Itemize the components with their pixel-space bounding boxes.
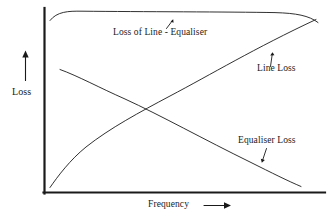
y-axis-label: Loss: [12, 87, 31, 97]
figure-container: Loss of Line - Equaliser Line Loss Equal…: [0, 0, 335, 218]
annotation-label-line-loss: Line Loss: [257, 64, 296, 74]
curve-line-loss: [50, 20, 316, 188]
curve-equaliser-loss: [60, 70, 301, 187]
annotation-label-equaliser-loss: Equaliser Loss: [238, 136, 296, 146]
curve-loss-of-line-equaliser: [50, 11, 318, 22]
y-axis-direction-arrow-icon: [22, 51, 28, 81]
pointer-equaliser-loss-icon: [261, 149, 267, 163]
x-axis-direction-arrow-icon: [204, 202, 231, 208]
annotation-label-loss-of-line-equaliser: Loss of Line - Equaliser: [113, 28, 207, 38]
x-axis-label: Frequency: [148, 200, 189, 210]
